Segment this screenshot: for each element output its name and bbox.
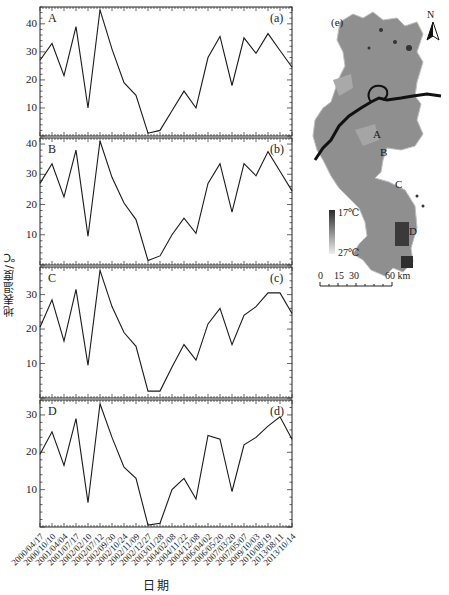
legend-max-label: 27℃ [338,247,359,258]
y-tick-label: 40 [15,137,37,149]
site-label: B [48,142,56,157]
temperature-charts: 地表温度/℃ 日期 10203040A(a)10203040B(b)102030… [0,0,310,595]
y-tick-label: 30 [15,167,37,179]
map-site-b: B [380,146,387,158]
series-line-d [40,404,292,525]
y-tick-label: 10 [15,101,37,113]
scale-tick-60km: 60 km [385,270,410,281]
line-chart-panels [0,0,310,595]
scale-bar [320,282,392,286]
y-tick-label: 30 [15,408,37,420]
scale-tick-0: 0 [318,270,323,281]
y-tick-label: 30 [15,288,37,300]
legend-min-label: 17℃ [338,207,359,218]
y-tick-label: 10 [15,228,37,240]
panel-frame-a [40,7,292,136]
legend-color-ramp [329,210,335,254]
scale-tick-15: 15 [334,270,344,281]
panel-label: (c) [270,271,283,286]
panel-label: (a) [270,11,283,26]
series-line-b [40,141,292,261]
y-tick-label: 20 [15,322,37,334]
panel-label: (d) [270,404,284,419]
y-tick-label: 10 [15,483,37,495]
scale-tick-30: 30 [349,270,359,281]
north-label: N [427,9,434,20]
panel-label: (b) [270,142,284,157]
map-graphic [305,0,449,300]
y-axis-label: 地表温度/℃ [2,250,18,317]
site-label: C [48,271,56,286]
study-area-map: (e) N A B C D 17℃ 27℃ 0 15 30 60 km [305,0,449,300]
map-site-d: D [409,225,417,237]
y-tick-label: 10 [15,357,37,369]
y-tick-label: 20 [15,198,37,210]
map-site-a: A [373,128,381,140]
y-tick-label: 20 [15,445,37,457]
site-label: D [48,404,57,419]
series-line-c [40,270,292,391]
map-site-c: C [395,178,402,190]
y-tick-label: 30 [15,45,37,57]
panel-label-e: (e) [331,16,343,28]
series-line-a [40,10,292,133]
site-label: A [48,11,57,26]
y-tick-label: 20 [15,73,37,85]
y-tick-label: 40 [15,17,37,29]
